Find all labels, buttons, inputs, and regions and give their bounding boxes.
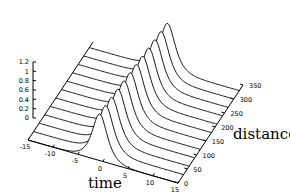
time-tick-label: -10 xyxy=(45,150,56,158)
time-tick-label: 0 xyxy=(98,165,102,173)
distance-tick-label: 0 xyxy=(184,180,188,188)
time-tick-label: 5 xyxy=(123,172,127,180)
z-tick-label: 0.4 xyxy=(19,96,29,104)
distance-tick-label: 50 xyxy=(193,166,201,174)
time-axis-title: time xyxy=(88,174,122,192)
distance-tick-label: 300 xyxy=(240,96,252,104)
z-tick-label: 0.2 xyxy=(19,105,29,113)
waterfall-plot: 00.20.40.60.811.2-15-10-5051015050100150… xyxy=(0,0,290,194)
z-tick-label: 0.6 xyxy=(19,86,29,94)
distance-tick-label: 100 xyxy=(203,152,215,160)
distance-axis-title: distance xyxy=(233,125,290,143)
time-tick-label: 15 xyxy=(171,186,179,194)
distance-tick-label: 150 xyxy=(212,138,224,146)
distance-tick-label: 350 xyxy=(249,82,261,90)
z-tick-label: 1.2 xyxy=(19,58,29,66)
distance-tick-label: 250 xyxy=(230,110,242,118)
z-tick-label: 0 xyxy=(25,114,29,122)
z-tick-label: 1 xyxy=(25,68,29,76)
z-tick-label: 0.8 xyxy=(19,77,29,85)
time-tick-label: -5 xyxy=(72,157,78,165)
distance-tick-label: 200 xyxy=(221,124,233,132)
time-tick-label: 10 xyxy=(146,179,154,187)
time-tick-label: -15 xyxy=(20,143,31,151)
